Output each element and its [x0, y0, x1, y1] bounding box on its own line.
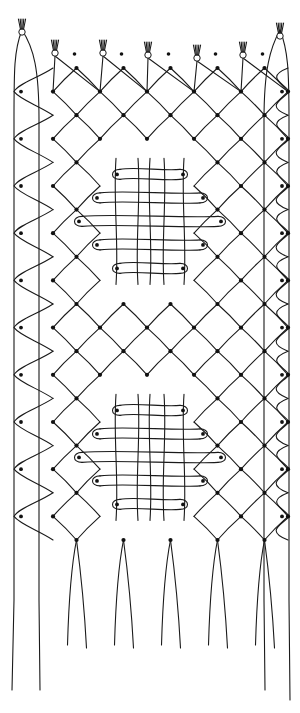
mesh-strand	[265, 375, 289, 399]
ladder-dot	[115, 409, 119, 413]
mesh-knot	[286, 231, 290, 235]
mesh-knot	[74, 302, 78, 306]
hanging-ring	[145, 52, 151, 58]
side-loop-dot	[19, 373, 23, 377]
mesh-strand	[241, 446, 265, 470]
mesh-strand	[77, 398, 101, 422]
mesh-knot	[262, 160, 266, 164]
mesh-strand	[241, 233, 265, 257]
mesh-knot	[121, 538, 125, 542]
mesh-knot	[192, 90, 196, 94]
mesh-strand	[194, 92, 218, 116]
side-loop-dot	[280, 137, 284, 141]
mesh-knot	[286, 420, 290, 424]
fringe	[68, 540, 275, 648]
mesh-strand	[194, 115, 218, 139]
mesh-strand	[53, 304, 77, 328]
mesh-strand	[100, 304, 124, 328]
drop-strand	[53, 56, 55, 92]
mesh-strand	[265, 186, 289, 210]
mesh-knot	[145, 90, 149, 94]
loop-dot	[73, 52, 77, 56]
mesh-knot	[74, 491, 78, 495]
mesh-strand	[241, 304, 265, 328]
loop-dot	[214, 52, 218, 56]
mesh-strand	[218, 280, 242, 304]
mesh-strand	[218, 469, 242, 493]
drop-strand	[55, 56, 100, 92]
mesh-knot	[51, 137, 55, 141]
ladder-vertical-strand	[137, 158, 139, 284]
mesh-knot	[262, 113, 266, 117]
ladder-dot	[181, 409, 185, 413]
mesh-strand	[194, 351, 218, 375]
mesh-knot	[51, 278, 55, 282]
mesh-strand	[53, 233, 77, 257]
fringe-strand	[256, 540, 265, 645]
loop-dot	[167, 52, 171, 56]
ladder-dot	[181, 503, 185, 507]
mesh-knot	[51, 231, 55, 235]
mesh-strand	[218, 92, 242, 116]
mesh-strand	[53, 516, 77, 540]
mesh-strand	[194, 398, 218, 422]
side-loop-dot	[280, 231, 284, 235]
ladder-dot	[115, 503, 119, 507]
mesh-strand	[218, 162, 242, 186]
mesh-strand	[147, 351, 171, 375]
mesh-strand	[124, 328, 148, 352]
mesh-knot	[215, 113, 219, 117]
mesh-strand	[171, 328, 195, 352]
mesh-knot	[262, 444, 266, 448]
mesh-strand	[218, 328, 242, 352]
mesh-knot	[239, 326, 243, 330]
mesh-strand	[194, 186, 218, 210]
mesh-knot	[121, 302, 125, 306]
mesh-knot	[51, 514, 55, 518]
mesh-knot	[51, 90, 55, 94]
mesh-knot	[168, 66, 172, 70]
mesh-strand	[77, 139, 101, 163]
mesh-strand	[218, 375, 242, 399]
mesh-strand	[194, 328, 218, 352]
mesh-knot	[74, 349, 78, 353]
fringe-strand	[162, 540, 171, 645]
mesh-strand	[147, 115, 171, 139]
mesh-strand	[194, 68, 218, 92]
ladder-vertical-strand	[163, 394, 165, 520]
mesh-strand	[194, 280, 218, 304]
ladder-vertical-strand	[137, 394, 139, 520]
side-loop-dot	[280, 515, 284, 519]
loop-dot	[261, 52, 265, 56]
mesh-strand	[241, 162, 265, 186]
side-loop-dot	[280, 467, 284, 471]
mesh-knot	[215, 538, 219, 542]
ladder-vertical-strand	[115, 394, 117, 520]
mesh-strand	[265, 92, 289, 116]
mesh-strand	[194, 422, 218, 446]
ladder-vertical-strand	[115, 158, 117, 284]
mesh-strand	[53, 446, 77, 470]
mesh-strand	[265, 328, 289, 352]
mesh-strand	[241, 516, 265, 540]
knots	[19, 52, 290, 542]
mesh-knot	[262, 302, 266, 306]
mesh-strand	[265, 139, 289, 163]
ladder-dot	[115, 267, 119, 271]
mesh-knot	[239, 90, 243, 94]
hanging-ring	[277, 33, 283, 39]
side-loop-dot	[19, 231, 23, 235]
mesh-knot	[145, 137, 149, 141]
mesh-knot	[74, 208, 78, 212]
mesh-strand	[53, 351, 77, 375]
mesh-strand	[53, 92, 77, 116]
mesh-strand	[218, 422, 242, 446]
mesh-knot	[239, 231, 243, 235]
ladder-dot	[95, 243, 99, 247]
mesh-knot	[286, 184, 290, 188]
mesh-knot	[215, 491, 219, 495]
mesh-strand	[100, 92, 124, 116]
mesh-strand	[77, 375, 101, 399]
mesh-strand	[194, 446, 218, 470]
mesh-knot	[239, 467, 243, 471]
